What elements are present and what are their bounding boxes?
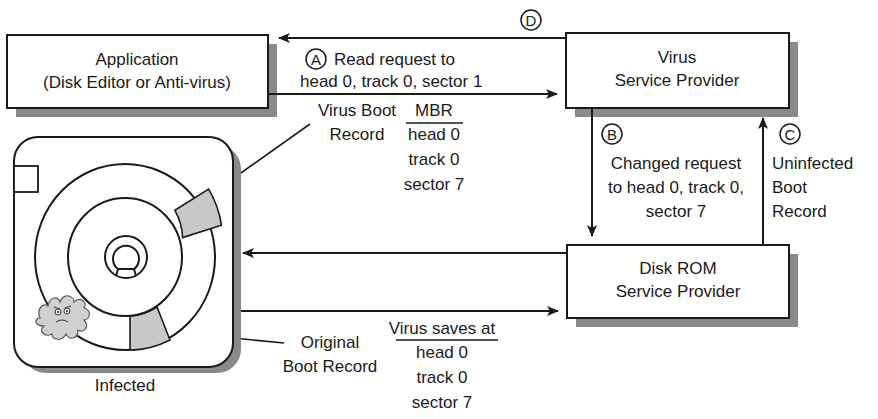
marker-c-label: C [785, 126, 796, 143]
virus-saves-header: Virus saves at [389, 319, 496, 338]
step-b-text-3: sector 7 [646, 202, 706, 221]
step-c-text-2: Boot [772, 178, 807, 197]
mbr-track: track 0 [408, 150, 459, 169]
virus-saves-track: track 0 [416, 368, 467, 387]
marker-d-label: D [526, 12, 537, 29]
disk-rom-subtitle: Service Provider [616, 282, 741, 301]
step-b-arrow: B Changed request to head 0, track 0, se… [592, 108, 744, 236]
step-a-text-1: Read request to [334, 50, 455, 69]
mbr-head: head 0 [408, 125, 460, 144]
virus-service-provider-node: Virus Service Provider [566, 33, 798, 117]
virus-saves-head: head 0 [416, 343, 468, 362]
virus-boot-record-line2: Record [330, 125, 385, 144]
application-node: Application (Disk Editor or Anti-virus) [7, 35, 277, 117]
virus-provider-title: Virus [658, 48, 696, 67]
marker-b-label: B [607, 126, 617, 143]
disk-rom-title: Disk ROM [639, 259, 716, 278]
virus-saves-sector: sector 7 [412, 393, 472, 412]
write-protect-notch [14, 166, 38, 192]
original-boot-record-line2: Boot Record [283, 357, 378, 376]
mbr-header: MBR [415, 101, 453, 120]
mbr-sector: sector 7 [404, 175, 464, 194]
application-title: Application [95, 50, 178, 69]
step-c-text-1: Uninfected [772, 154, 853, 173]
disk-rom-service-provider-node: Disk ROM Service Provider [567, 245, 798, 327]
infected-disk: Infected [14, 137, 241, 395]
boot-sector-virus-diagram: Application (Disk Editor or Anti-virus) … [0, 0, 878, 419]
application-subtitle: (Disk Editor or Anti-virus) [43, 73, 231, 92]
application-box [7, 35, 268, 108]
original-boot-record-line1: Original [301, 333, 360, 352]
step-c-arrow: C Uninfected Boot Record [763, 118, 853, 245]
step-c-text-3: Record [772, 202, 827, 221]
disk-hub-inner [113, 246, 139, 269]
step-b-text-2: to head 0, track 0, [608, 178, 744, 197]
disk-caption: Infected [95, 376, 156, 395]
step-b-text-1: Changed request [611, 154, 742, 173]
step-a-text-2: head 0, track 0, sector 1 [300, 72, 482, 91]
step-d-arrow: D [279, 10, 566, 38]
virus-boot-record-line1: Virus Boot [318, 101, 396, 120]
step-a-arrow: A Read request to head 0, track 0, secto… [268, 49, 557, 94]
marker-a-label: A [311, 51, 321, 68]
virus-provider-subtitle: Service Provider [615, 71, 740, 90]
